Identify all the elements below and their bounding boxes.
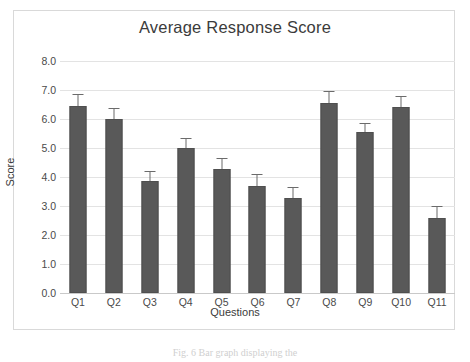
error-bar-cap	[252, 174, 263, 175]
x-axis-tick-label: Q9	[358, 296, 372, 308]
bar-group	[347, 61, 383, 293]
bar-group	[132, 61, 168, 293]
x-axis-tick-label: Q6	[250, 296, 264, 308]
bar-group	[168, 61, 204, 293]
y-axis-tick-label: 5.0	[4, 142, 56, 154]
bar	[177, 148, 194, 293]
bar-group	[96, 61, 132, 293]
x-axis-line	[60, 293, 455, 294]
y-axis-tick-label: 1.0	[4, 258, 56, 270]
bar-group	[60, 61, 96, 293]
error-bar-cap	[72, 94, 83, 95]
chart-title: Average Response Score	[0, 18, 470, 37]
error-bar	[185, 138, 186, 148]
x-axis-tick-label: Q11	[427, 296, 446, 308]
bar	[105, 119, 122, 293]
x-axis-tick-label: Q3	[143, 296, 157, 308]
y-axis-tick-label: 6.0	[4, 113, 56, 125]
bar	[213, 169, 230, 293]
error-bar	[149, 171, 150, 181]
error-bar	[77, 94, 78, 106]
error-bar-cap	[144, 171, 155, 172]
error-bar	[365, 123, 366, 132]
x-axis-tick-label: Q4	[179, 296, 193, 308]
error-bar	[257, 174, 258, 186]
bar	[285, 198, 302, 293]
x-axis-tick-label: Q10	[391, 296, 411, 308]
y-axis-label: Score	[4, 158, 16, 187]
y-axis-tick-label: 2.0	[4, 229, 56, 241]
x-axis-tick-label: Q8	[322, 296, 336, 308]
y-axis-tick-label: 3.0	[4, 200, 56, 212]
error-bar	[329, 91, 330, 103]
x-axis-tick-label: Q2	[107, 296, 121, 308]
bar-group	[419, 61, 455, 293]
error-bar-cap	[432, 206, 443, 207]
bar	[141, 181, 158, 293]
error-bar	[437, 206, 438, 218]
bar-group	[311, 61, 347, 293]
bar-group	[204, 61, 240, 293]
plot-area	[60, 61, 455, 293]
bar	[69, 106, 86, 293]
x-axis-tick-label: Q5	[215, 296, 229, 308]
x-axis-tick-label: Q1	[71, 296, 85, 308]
bar	[249, 186, 266, 293]
bar	[393, 107, 410, 293]
y-axis-tick-label: 8.0	[4, 55, 56, 67]
error-bar	[293, 187, 294, 198]
bar	[429, 218, 446, 293]
y-axis-tick-label: 0.0	[4, 287, 56, 299]
x-axis-tick-label: Q7	[286, 296, 300, 308]
error-bar	[401, 96, 402, 107]
error-bar-cap	[396, 96, 407, 97]
error-bar-cap	[108, 108, 119, 109]
error-bar-cap	[360, 123, 371, 124]
bar	[357, 132, 374, 293]
bar-group	[240, 61, 276, 293]
bar-group	[383, 61, 419, 293]
figure-caption: Fig. 6 Bar graph displaying the	[0, 347, 470, 362]
error-bar-cap	[180, 138, 191, 139]
error-bar	[113, 108, 114, 119]
bar-group	[275, 61, 311, 293]
bar	[321, 103, 338, 293]
y-axis-tick-label: 7.0	[4, 84, 56, 96]
error-bar-cap	[288, 187, 299, 188]
error-bar-cap	[216, 158, 227, 159]
error-bar-cap	[324, 91, 335, 92]
error-bar	[221, 158, 222, 169]
